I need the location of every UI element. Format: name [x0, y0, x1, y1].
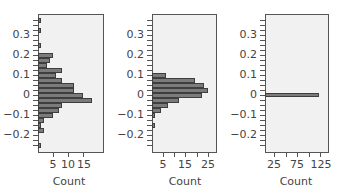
y-tick	[260, 110, 265, 111]
y-tick	[260, 55, 265, 56]
y-tick	[260, 105, 265, 106]
x-tick	[309, 153, 310, 157]
x-tick	[286, 153, 287, 157]
plot-area-3	[265, 14, 329, 153]
y-tick	[260, 90, 265, 91]
histogram-bar	[265, 93, 319, 97]
y-tick	[260, 125, 265, 126]
y-tick	[260, 100, 265, 101]
y-tick	[260, 130, 265, 131]
x-axis-title: Count	[266, 175, 326, 188]
y-tick	[260, 145, 265, 146]
y-tick-label: 0.2	[227, 49, 257, 61]
y-tick	[260, 20, 265, 21]
y-tick	[260, 80, 265, 81]
y-tick	[260, 70, 265, 71]
y-tick	[260, 135, 265, 136]
x-tick-label: 125	[306, 159, 336, 171]
y-tick	[260, 85, 265, 86]
y-tick	[260, 25, 265, 26]
x-tick	[274, 153, 275, 157]
y-tick	[260, 40, 265, 41]
y-tick	[260, 50, 265, 51]
x-tick	[320, 153, 321, 157]
y-tick-label: −0.2	[227, 129, 257, 141]
y-tick	[260, 65, 265, 66]
y-tick	[260, 115, 265, 116]
x-tick	[297, 153, 298, 157]
y-tick	[260, 30, 265, 31]
y-tick	[260, 45, 265, 46]
y-tick	[260, 75, 265, 76]
histogram-panel-3: 0.30.20.10−0.1−0.2 25 75 125 Count	[0, 0, 339, 194]
y-tick	[260, 60, 265, 61]
y-tick	[260, 140, 265, 141]
y-tick-label: 0	[227, 89, 257, 101]
y-tick	[260, 35, 265, 36]
y-tick	[260, 95, 265, 96]
y-tick	[260, 120, 265, 121]
y-tick-label: 0.3	[227, 29, 257, 41]
y-tick-label: −0.1	[227, 109, 257, 121]
y-tick-label: 0.1	[227, 69, 257, 81]
